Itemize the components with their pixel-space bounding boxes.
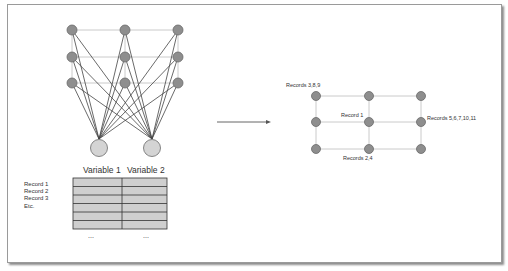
node <box>67 78 77 88</box>
node <box>120 78 130 88</box>
node <box>173 52 183 62</box>
map-node <box>365 118 374 127</box>
row-label: Etc. <box>24 203 35 209</box>
arrow-right-icon <box>217 120 271 124</box>
map-node <box>365 92 374 101</box>
network-input-nodes <box>91 140 161 157</box>
map-node <box>312 92 321 101</box>
row-label: Record 2 <box>24 188 49 194</box>
diagram-canvas: Variable 1 Variable 2 Record 1 Record 2 … <box>0 0 508 271</box>
map-nodes <box>312 92 426 154</box>
row-label: Record 3 <box>24 195 49 201</box>
map-node <box>417 92 426 101</box>
node <box>173 25 183 35</box>
map-node <box>312 118 321 127</box>
map-node <box>417 118 426 127</box>
map-label-bottom-center: Records 2,4 <box>343 155 373 161</box>
map-node <box>417 145 426 154</box>
node <box>120 25 130 35</box>
data-table <box>73 178 167 229</box>
table-ellipsis: ... <box>143 232 149 239</box>
input-node-variable-2 <box>144 140 161 157</box>
map-label-center: Record 1 <box>341 112 363 118</box>
map-node <box>312 145 321 154</box>
node <box>67 25 77 35</box>
node <box>120 52 130 62</box>
map-label-top-left: Records 3,8,9 <box>286 82 320 88</box>
map-node <box>365 145 374 154</box>
row-label: Record 1 <box>24 181 49 187</box>
node <box>67 52 77 62</box>
node <box>173 78 183 88</box>
table-ellipsis: ... <box>88 232 94 239</box>
map-label-middle-right: Records 5,6,7,10,11 <box>427 115 476 121</box>
input-node-variable-1 <box>91 140 108 157</box>
table-header-variable-1: Variable 1 <box>83 165 121 175</box>
table-header-variable-2: Variable 2 <box>127 165 165 175</box>
